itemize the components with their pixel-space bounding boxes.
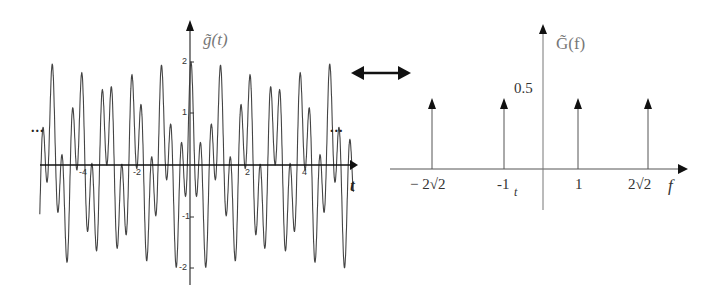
left-y-tick-label: -2 [179,262,187,272]
impulse [500,98,508,169]
left-y-tick-label: 1 [182,107,187,117]
right-y-axis-arrow-icon [539,24,547,34]
diagram-canvas [0,0,712,290]
right-y-axis-label: G̃(f) [556,34,585,54]
impulse [428,98,436,169]
ellipsis-right: ... [330,120,344,136]
left-y-tick-label: -1 [182,211,190,221]
right-x-axis-arrow-icon [678,164,688,174]
right-x-tick-label: − 2√2 [410,176,445,193]
impulse [644,98,652,169]
left-x-tick-label: 4 [302,167,307,177]
left-x-tick-label: 2 [245,167,250,177]
impulse [574,98,582,169]
right-x-tick-label: -1 [497,176,510,193]
left-x-tick-label: -2 [133,167,141,177]
left-y-tick-label: 2 [182,56,187,66]
left-x-axis-label: t [350,176,355,196]
left-plot [40,20,358,285]
right-x-axis-label: f [668,176,673,196]
right-stray-label: t [514,185,517,200]
left-y-axis-label: g̃(t) [203,30,228,50]
right-y-tick-label: 0.5 [514,80,533,97]
double-headed-arrow-icon [351,66,411,80]
right-x-tick-label: 1 [575,176,583,193]
left-x-axis-arrow-icon [350,160,358,170]
ellipsis-left: ... [31,120,45,136]
left-y-axis-arrow-icon [186,20,194,31]
left-x-tick-label: -4 [79,167,87,177]
right-x-tick-label: 2√2 [628,176,651,193]
